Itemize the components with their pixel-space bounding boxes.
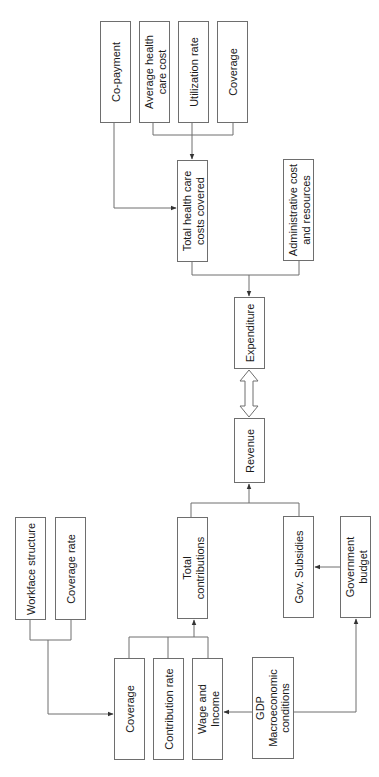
arrow-copayment bbox=[114, 123, 176, 208]
double-arrow-revenue-expenditure bbox=[240, 370, 258, 417]
bracket-top-inputs bbox=[153, 123, 233, 135]
node-gov-subsidies: Gov. Subsidies bbox=[283, 516, 314, 618]
node-label: Contribution rate bbox=[162, 668, 175, 749]
node-label: GDP Macroeconomic conditions bbox=[254, 669, 292, 747]
node-label: Government budget bbox=[343, 537, 368, 598]
node-label: Expenditure bbox=[243, 304, 256, 363]
node-average-health-care-cost: Average health care cost bbox=[139, 21, 170, 123]
node-total-health-care-costs-covered: Total health care costs covered bbox=[177, 160, 208, 262]
node-utilization-rate: Utilization rate bbox=[178, 21, 209, 123]
node-label: Coverage bbox=[226, 48, 239, 96]
bracket-expenditure-inputs bbox=[192, 261, 299, 275]
node-label: Coverage rate bbox=[64, 534, 77, 604]
node-coverage-bottom: Coverage bbox=[114, 658, 145, 760]
arrow-to-coverage-bottom bbox=[48, 640, 113, 714]
node-label: Utilization rate bbox=[187, 37, 200, 107]
node-coverage-top: Coverage bbox=[217, 21, 248, 123]
node-wage-and-income: Wage and Income bbox=[192, 658, 223, 760]
node-label: Revenue bbox=[243, 428, 256, 472]
node-total-contributions: Total contributions bbox=[177, 517, 208, 619]
node-administrative-cost: Administrative cost and resources bbox=[283, 159, 314, 261]
node-revenue: Revenue bbox=[234, 418, 265, 483]
node-label: Coverage bbox=[123, 685, 136, 733]
node-label: Total health care costs covered bbox=[180, 171, 205, 252]
bracket-workforce-inputs bbox=[30, 620, 71, 640]
bracket-revenue-inputs bbox=[191, 503, 299, 517]
node-expenditure: Expenditure bbox=[234, 297, 265, 369]
node-label: Co-payment bbox=[109, 42, 122, 102]
node-workface-structure: Workface structure bbox=[15, 517, 46, 620]
node-contribution-rate: Contribution rate bbox=[153, 658, 184, 760]
node-government-budget: Government budget bbox=[340, 516, 371, 618]
node-coverage-rate: Coverage rate bbox=[55, 517, 86, 620]
node-label: Wage and Income bbox=[195, 684, 220, 734]
node-label: Gov. Subsidies bbox=[292, 530, 305, 603]
arrow-gdp-to-budget bbox=[294, 619, 356, 712]
node-label: Workface structure bbox=[24, 522, 37, 614]
node-label: Total contributions bbox=[180, 537, 205, 599]
node-gdp-macroeconomic-conditions: GDP Macroeconomic conditions bbox=[252, 657, 294, 759]
node-label: Administrative cost and resources bbox=[286, 164, 311, 256]
node-co-payment: Co-payment bbox=[100, 21, 131, 123]
node-label: Average health care cost bbox=[142, 35, 167, 109]
